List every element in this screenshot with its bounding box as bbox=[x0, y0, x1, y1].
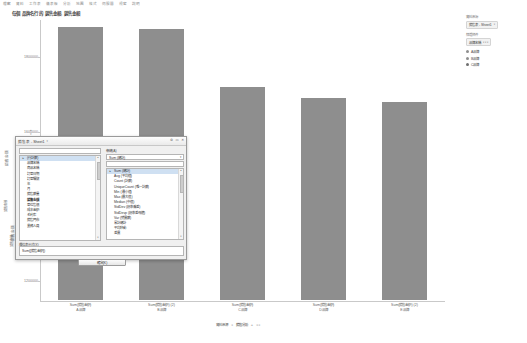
legend-item[interactable]: A品牌 bbox=[466, 49, 524, 54]
aggregation-list-item-label: Count (計數) bbox=[114, 179, 132, 183]
field-list-item-label: 銷售門市 bbox=[27, 218, 39, 222]
aggregation-scrollbar[interactable]: ▴ ▾ bbox=[178, 169, 183, 239]
legend-label: B品牌 bbox=[471, 56, 479, 61]
y-axis-title-primary: 銷售金額 bbox=[4, 150, 9, 166]
scroll-down-icon[interactable]: ▾ bbox=[96, 236, 100, 240]
aggregation-list-item-label: Min (最小值) bbox=[114, 190, 132, 194]
data-source-selector[interactable]: 銷售表 - Sheet1 ▾ bbox=[466, 21, 498, 29]
legend-label: A品牌 bbox=[471, 49, 479, 54]
y-tick-label: 1800000 bbox=[24, 55, 38, 59]
menu-item-window[interactable]: 視窗 bbox=[119, 0, 127, 8]
sheet-tab-analysis[interactable]: 銷售分析 bbox=[236, 322, 248, 327]
field-search-input[interactable] bbox=[19, 148, 101, 154]
ok-button[interactable]: 確定(K) bbox=[78, 259, 126, 266]
aggregation-list-item[interactable]: 差異 bbox=[107, 231, 183, 236]
aggregation-list-item-label: 平均移動 bbox=[114, 226, 126, 230]
aggregation-list-item-label: Sum (總計) bbox=[114, 169, 130, 173]
aggregation-list-item-label: 差異 bbox=[114, 231, 120, 235]
y-tick-mark bbox=[38, 57, 40, 58]
aggregation-select[interactable]: Sum (總計) ▾ bbox=[106, 154, 184, 160]
fields-scrollbar[interactable]: ▴ ▾ bbox=[95, 156, 100, 240]
menu-item-server[interactable]: 伺服器 bbox=[102, 0, 114, 8]
x-axis-label-group: Sum(銷售金額)C品牌 bbox=[202, 303, 283, 313]
aggregation-list-item-label: 累計總計 bbox=[114, 221, 126, 225]
aggregation-dialog[interactable]: 銷售表 - Sheet1 ▾ ⚙ ▭ ✕ ▸(行計數)品牌名稱商品名稱訂單日期訂… bbox=[15, 136, 187, 260]
field-list-item-label: 成本金額 bbox=[27, 208, 39, 212]
filter-group: 篩選條件 品牌名稱 ▾ ▾ ▾ bbox=[466, 32, 524, 47]
field-list-item-label: 銷售數量 bbox=[27, 192, 39, 196]
field-list-item-label: 商品名稱 bbox=[27, 166, 39, 170]
sheet-separator-icon: ◂ bbox=[231, 323, 233, 327]
data-source-value: 銷售表 - Sheet1 bbox=[469, 22, 492, 27]
scroll-down-icon[interactable]: ▾ bbox=[179, 235, 183, 239]
field-list-item-label: 業務人員 bbox=[27, 224, 39, 228]
y-tick-mark bbox=[38, 281, 40, 282]
legend-item[interactable]: C品牌 bbox=[466, 62, 524, 67]
x-axis-category-label: C品牌 bbox=[202, 308, 283, 313]
aggregation-list-item-label: Var (變異數) bbox=[114, 216, 131, 220]
menu-item-help[interactable]: 說明 bbox=[132, 0, 140, 8]
data-source-heading: 資料來源 bbox=[466, 14, 524, 19]
sheet-nav-icon[interactable]: ◂ ▸ bbox=[256, 323, 261, 327]
field-list-item-label: (行計數) bbox=[27, 156, 38, 160]
aggregation-filter-input[interactable] bbox=[106, 161, 184, 167]
x-axis-label-group: Sum(銷售金額) (2)E品牌 bbox=[364, 303, 445, 313]
field-list-item-label: 訂單日期 bbox=[27, 172, 39, 176]
y-tick-label: 1200000 bbox=[24, 279, 38, 283]
fields-listbox[interactable]: ▸(行計數)品牌名稱商品名稱訂單日期訂單編號年月銷售數量銷售金額單位售價成本金額… bbox=[19, 155, 101, 241]
x-axis-label-group: Sum(銷售金額)A品牌 bbox=[40, 303, 121, 313]
y-tick-mark bbox=[38, 132, 40, 133]
chevron-down-icon: ▾ ▾ ▾ bbox=[483, 41, 488, 44]
dialog-window-buttons[interactable]: ⚙ ▭ ✕ bbox=[170, 139, 184, 142]
data-source-group: 資料來源 銷售表 - Sheet1 ▾ bbox=[466, 14, 524, 29]
scroll-up-icon[interactable]: ▴ bbox=[96, 156, 100, 160]
filter-selector[interactable]: 品牌名稱 ▾ ▾ ▾ bbox=[466, 38, 491, 46]
menu-item-data[interactable]: 資料 bbox=[16, 0, 24, 8]
menu-item-file[interactable]: 檔案 bbox=[3, 0, 11, 8]
field-list-item-label: 訂單編號 bbox=[27, 177, 39, 181]
aggregation-list-item-label: Max (最大值) bbox=[114, 195, 133, 199]
legend-color-swatch-icon bbox=[466, 50, 469, 53]
side-panel: 資料來源 銷售表 - Sheet1 ▾ 篩選條件 品牌名稱 ▾ ▾ ▾ A品牌B… bbox=[466, 14, 524, 67]
field-list-item-label: 銷售金額 bbox=[27, 198, 39, 202]
bar-D品牌[interactable] bbox=[301, 98, 346, 300]
menu-item-map[interactable]: 地圖 bbox=[76, 0, 84, 8]
x-axis-category-label: B品牌 bbox=[121, 308, 202, 313]
maximize-icon[interactable]: ▭ bbox=[175, 139, 178, 142]
aggregation-list-item-label: StdDev (標準偏差) bbox=[114, 205, 140, 209]
chevron-down-icon: ▾ bbox=[494, 23, 495, 26]
field-list-item-label: 品牌名稱 bbox=[27, 161, 39, 165]
legend-color-swatch-icon bbox=[466, 57, 469, 60]
shelf-label-columns: 銷售金額 bbox=[9, 235, 14, 247]
aggregation-list-item-label: UniqueCount (唯一計數) bbox=[114, 185, 149, 189]
menu-item-dashboard[interactable]: 儀表板 bbox=[46, 0, 58, 8]
aggregation-listbox[interactable]: ▸Sum (總計)Avg (平均值)Count (計數)UniqueCount … bbox=[106, 168, 184, 240]
menu-item-worksheet[interactable]: 工作表 bbox=[29, 0, 41, 8]
x-axis-category-label: A品牌 bbox=[40, 308, 121, 313]
sheet-tab-datasource[interactable]: 資料來源 bbox=[216, 322, 228, 327]
scrollbar-thumb[interactable] bbox=[97, 162, 102, 180]
aggregation-list-item-label: Avg (平均值) bbox=[114, 174, 132, 178]
field-list-item-label: 單位售價 bbox=[27, 203, 39, 207]
scroll-up-icon[interactable]: ▴ bbox=[179, 169, 183, 173]
menu-item-format[interactable]: 格式 bbox=[89, 0, 97, 8]
sheet-tab-bar[interactable]: 資料來源 ◂ 銷售分析 + ◂ ▸ bbox=[216, 322, 261, 327]
close-icon[interactable]: ✕ bbox=[181, 139, 184, 142]
bar-E品牌[interactable] bbox=[382, 102, 427, 300]
menu-item-analysis[interactable]: 分析 bbox=[63, 0, 71, 8]
chevron-down-icon[interactable]: ▾ bbox=[47, 139, 48, 143]
legend-item[interactable]: B品牌 bbox=[466, 56, 524, 61]
aggregation-selected-value: Sum (總計) bbox=[109, 155, 125, 160]
settings-icon[interactable]: ⚙ bbox=[170, 139, 173, 142]
legend: A品牌B品牌C品牌 bbox=[466, 49, 524, 67]
field-list-item[interactable]: 業務人員 bbox=[20, 224, 100, 229]
scrollbar-thumb[interactable] bbox=[180, 175, 185, 193]
dialog-title-bar[interactable]: 銷售表 - Sheet1 ▾ ⚙ ▭ ✕ bbox=[16, 137, 186, 146]
formula-input[interactable]: Sum([銷售金額]) bbox=[19, 246, 184, 256]
menu-bar[interactable]: 檔案 資料 工作表 儀表板 分析 地圖 格式 伺服器 視窗 說明 bbox=[0, 0, 527, 8]
add-sheet-icon[interactable]: + bbox=[251, 322, 253, 327]
bar-C品牌[interactable] bbox=[220, 87, 265, 300]
x-axis-label-group: Sum(銷售金額)D品牌 bbox=[283, 303, 364, 313]
chevron-down-icon[interactable]: ▾ bbox=[180, 155, 181, 159]
legend-color-swatch-icon bbox=[466, 63, 469, 66]
